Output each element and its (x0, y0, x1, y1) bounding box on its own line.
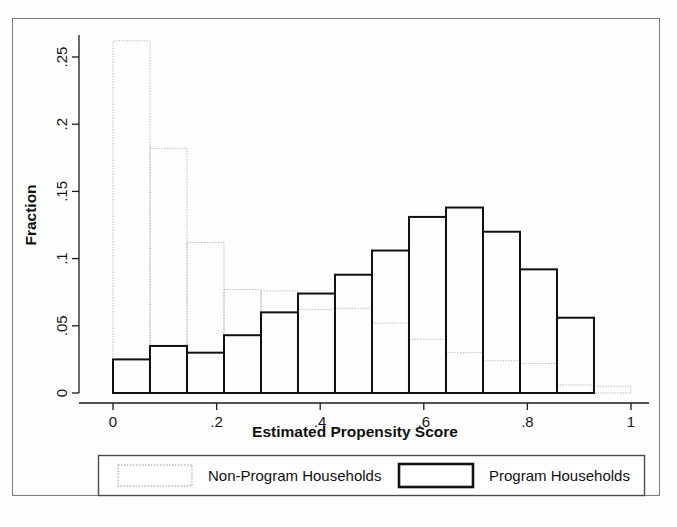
y-axis (72, 35, 79, 393)
histogram-bar (557, 385, 594, 393)
histogram-bar (187, 353, 224, 393)
y-tick-label: .05 (53, 315, 70, 336)
y-tick-label: .25 (53, 47, 70, 68)
legend-label-program: Program Households (489, 467, 630, 484)
histogram-bar (483, 361, 520, 393)
histogram-bar (335, 308, 372, 393)
histogram-bar (409, 339, 446, 393)
histogram-bar (446, 208, 483, 393)
histogram-bar (113, 41, 150, 393)
histogram-bar (150, 148, 187, 393)
x-axis (79, 403, 649, 410)
histogram-bar (372, 251, 409, 393)
histogram-bar (298, 294, 335, 393)
bars-program (113, 208, 594, 393)
y-tick-label: .15 (53, 181, 70, 202)
x-tick-label: 0 (109, 413, 117, 430)
y-axis-title: Fraction (22, 184, 39, 245)
histogram-bar (520, 269, 557, 393)
histogram-bar (483, 232, 520, 393)
histogram-bar (594, 386, 631, 393)
y-tick-label: .1 (53, 252, 70, 265)
x-tick-label: 1 (627, 413, 635, 430)
x-tick-label: .8 (521, 413, 534, 430)
y-tick-labels: 0.05.1.15.2.25 (53, 47, 70, 398)
histogram-bar (298, 310, 335, 393)
histogram-bar (224, 335, 261, 393)
y-tick-label: 0 (53, 389, 70, 397)
histogram-bar (187, 242, 224, 393)
legend-swatch-program (399, 464, 473, 487)
legend-swatch-non-program (118, 465, 192, 486)
histogram-bar (446, 353, 483, 393)
x-tick-label: .2 (210, 413, 223, 430)
histogram-bar (261, 312, 298, 393)
y-tick-label: .2 (53, 118, 70, 131)
histogram-bar (261, 291, 298, 393)
histogram-bar (520, 363, 557, 393)
histogram-bar (150, 346, 187, 393)
histogram-bar (372, 323, 409, 393)
legend-label-non-program: Non-Program Households (208, 467, 381, 484)
histogram-bar (335, 275, 372, 393)
histogram-bar (557, 318, 594, 393)
histogram-plot: 0.05.1.15.2.25 0.2.4.6.81 Fraction Estim… (0, 0, 677, 527)
histogram-bar (113, 359, 150, 393)
legend: Non-Program Households Program Household… (99, 456, 645, 496)
figure-canvas: 0.05.1.15.2.25 0.2.4.6.81 Fraction Estim… (0, 0, 677, 527)
x-axis-title: Estimated Propensity Score (252, 423, 458, 440)
histogram-bar (409, 217, 446, 393)
histogram-bar (224, 290, 261, 393)
